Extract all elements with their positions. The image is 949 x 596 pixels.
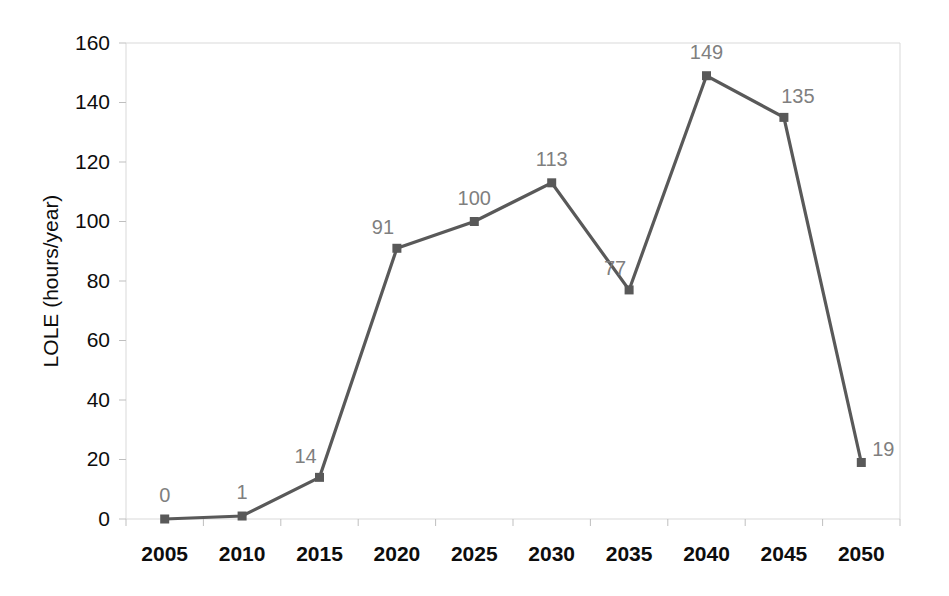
x-tick-label-2040: 2040 xyxy=(683,542,730,565)
data-point-2010 xyxy=(238,512,247,521)
data-point-2020 xyxy=(392,244,401,253)
y-tick-label-160: 160 xyxy=(75,31,110,54)
y-tick-label-100: 100 xyxy=(75,209,110,232)
data-point-2045 xyxy=(779,113,788,122)
data-point-2050 xyxy=(857,458,866,467)
data-label-2015: 14 xyxy=(294,445,316,467)
y-tick-label-0: 0 xyxy=(98,507,110,530)
data-label-2020: 91 xyxy=(372,216,394,238)
x-tick-label-2015: 2015 xyxy=(296,542,343,565)
data-label-2030: 113 xyxy=(536,148,568,170)
data-label-2010: 1 xyxy=(237,481,248,503)
data-label-2035: 77 xyxy=(604,257,626,279)
y-tick-label-140: 140 xyxy=(75,90,110,113)
data-label-2025: 100 xyxy=(458,187,491,209)
x-tick-label-2010: 2010 xyxy=(219,542,266,565)
data-label-2005: 0 xyxy=(159,484,170,506)
y-tick-label-80: 80 xyxy=(87,269,110,292)
data-label-2045: 135 xyxy=(781,85,814,107)
data-point-2005 xyxy=(160,515,169,524)
y-tick-label-40: 40 xyxy=(87,388,110,411)
y-tick-label-120: 120 xyxy=(75,150,110,173)
y-tick-label-20: 20 xyxy=(87,447,110,470)
x-tick-label-2030: 2030 xyxy=(528,542,575,565)
y-axis-title: LOLE (hours/year) xyxy=(39,195,62,368)
x-tick-label-2045: 2045 xyxy=(761,542,808,565)
chart-container: 020406080100120140160 200520102015202020… xyxy=(0,0,949,596)
x-tick-label-2035: 2035 xyxy=(606,542,653,565)
x-tick-label-2050: 2050 xyxy=(838,542,885,565)
data-point-2035 xyxy=(625,285,634,294)
data-point-2015 xyxy=(315,473,324,482)
data-point-2025 xyxy=(470,217,479,226)
data-label-2040: 149 xyxy=(690,41,723,63)
x-tick-label-2005: 2005 xyxy=(141,542,188,565)
line-chart: 020406080100120140160 200520102015202020… xyxy=(0,0,949,596)
y-tick-label-60: 60 xyxy=(87,328,110,351)
data-label-2050: 19 xyxy=(872,438,894,460)
data-point-2030 xyxy=(547,178,556,187)
x-tick-label-2020: 2020 xyxy=(374,542,421,565)
x-tick-label-2025: 2025 xyxy=(451,542,498,565)
data-point-2040 xyxy=(702,71,711,80)
